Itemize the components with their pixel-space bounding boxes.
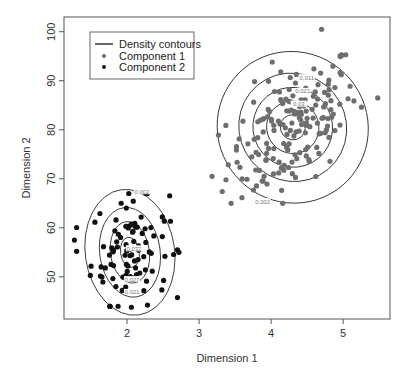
data-point [297,115,302,120]
y-tick-label: 70 [45,173,57,185]
data-point [100,279,105,284]
x-axis: 2345 [124,319,346,339]
x-tick-label: 3 [196,327,202,339]
x-tick-label: 4 [268,327,274,339]
data-point [359,105,364,110]
data-point [216,132,221,137]
data-point [223,177,228,182]
data-point [141,288,146,293]
data-point [229,201,234,206]
contour-label: 0.002 [255,199,271,205]
data-point [317,131,322,136]
data-point [148,225,153,230]
data-point [252,137,257,142]
data-point [145,302,150,307]
data-point [113,217,118,222]
data-point [270,59,275,64]
data-point [325,124,330,129]
data-point [276,170,281,175]
data-point [249,154,254,159]
data-point [294,72,299,77]
data-point [309,107,314,112]
legend-label-contours: Density contours [119,38,201,50]
data-point [258,118,263,123]
data-point [130,229,135,234]
data-point [286,165,291,170]
contour-label: 0.032 [126,246,142,252]
data-point [107,304,112,309]
contour-line [237,71,349,184]
data-point [314,145,319,150]
data-point [326,93,331,98]
data-point [297,150,302,155]
data-point [141,254,146,259]
data-point [331,111,336,116]
data-point [283,97,288,102]
data-point [220,189,225,194]
data-point [332,128,337,133]
data-point [347,84,352,89]
data-point [240,119,245,124]
contour-line [77,183,183,321]
data-point [292,152,297,157]
contour-line [186,21,399,234]
data-point [252,79,257,84]
data-point [253,167,258,172]
data-point [124,205,129,210]
data-point [293,175,298,180]
data-point [171,252,176,257]
data-point [92,220,97,225]
data-point [113,284,118,289]
data-point [223,123,228,128]
data-point [240,176,245,181]
data-point [326,87,331,92]
data-point [280,201,285,206]
data-point [319,27,324,32]
y-tick-label: 50 [45,271,57,283]
data-point [88,273,93,278]
data-point [337,122,342,127]
data-point [132,258,137,263]
x-axis-title: Dimension 1 [196,352,257,364]
data-point [303,130,308,135]
legend-component1-marker-icon [102,54,106,58]
y-tick-label: 100 [45,23,57,41]
data-point [326,135,331,140]
data-point [266,107,271,112]
data-point [285,147,290,152]
data-point [271,156,276,161]
data-point [337,53,342,58]
data-point [101,244,106,249]
data-point [168,219,173,224]
data-point [254,183,259,188]
data-point [244,177,249,182]
data-point [115,244,120,249]
data-point [304,108,309,113]
y-tick-label: 60 [45,222,57,234]
data-point [315,96,320,101]
data-point [99,274,104,279]
contour-label: 0.002 [134,189,150,195]
data-point [245,141,250,146]
data-point [260,178,265,183]
data-point [143,240,148,245]
data-point [133,265,138,270]
data-point [288,128,293,133]
data-point [143,267,148,272]
data-point [292,109,297,114]
data-point [304,123,309,128]
data-point [135,224,140,229]
data-point [114,239,119,244]
data-point [161,278,166,283]
data-point [289,159,294,164]
data-point [160,234,165,239]
y-axis: 5060708090100 [45,23,64,283]
data-point [284,132,289,137]
data-point [144,279,149,284]
data-point [271,123,276,128]
data-point [276,118,281,123]
contour-label: 0.021 [295,88,311,94]
data-point [271,146,276,151]
data-point [234,144,239,149]
y-axis-title: Dimension 2 [20,137,32,198]
